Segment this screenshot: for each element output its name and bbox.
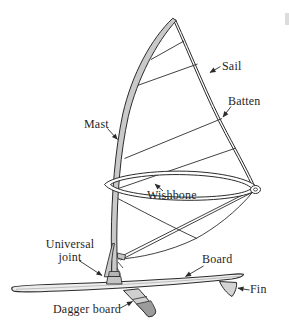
clew-hardware: [251, 186, 261, 194]
universal-joint-drawing: [107, 272, 123, 285]
fin-drawing: [220, 282, 237, 297]
label-sail: Sail: [222, 60, 241, 73]
sail-seam-line: [113, 196, 197, 239]
label-universal-joint: Universal joint: [34, 238, 106, 263]
label-batten: Batten: [228, 95, 261, 108]
windsurfer-line-art: [0, 0, 289, 335]
windsurfer-diagram: Sail Batten Mast Wishbone Universal join…: [0, 0, 289, 335]
label-dagger-board: Dagger board: [53, 303, 121, 316]
batten-leader-arrow: [223, 107, 231, 118]
label-wishbone: Wishbone: [147, 189, 197, 202]
dagger-board-tip: [137, 301, 156, 317]
label-fin: Fin: [250, 283, 267, 296]
dagger-board-drawing: [124, 289, 156, 317]
batten-line-4: [113, 148, 237, 191]
label-mast: Mast: [84, 118, 109, 131]
page-edge-mark: [285, 13, 289, 25]
board-drawing: [12, 274, 244, 292]
label-board: Board: [202, 253, 232, 266]
batten-line-3: [125, 119, 223, 159]
fin-leader-arrow: [238, 288, 250, 290]
dagger-board-leader-arrow: [120, 302, 133, 309]
mast-drawing: [111, 18, 176, 281]
batten-lines: [113, 41, 237, 191]
board-leader-arrow: [186, 266, 204, 277]
mast-leader-arrow: [108, 129, 118, 140]
sail-leader-arrow: [210, 67, 221, 73]
